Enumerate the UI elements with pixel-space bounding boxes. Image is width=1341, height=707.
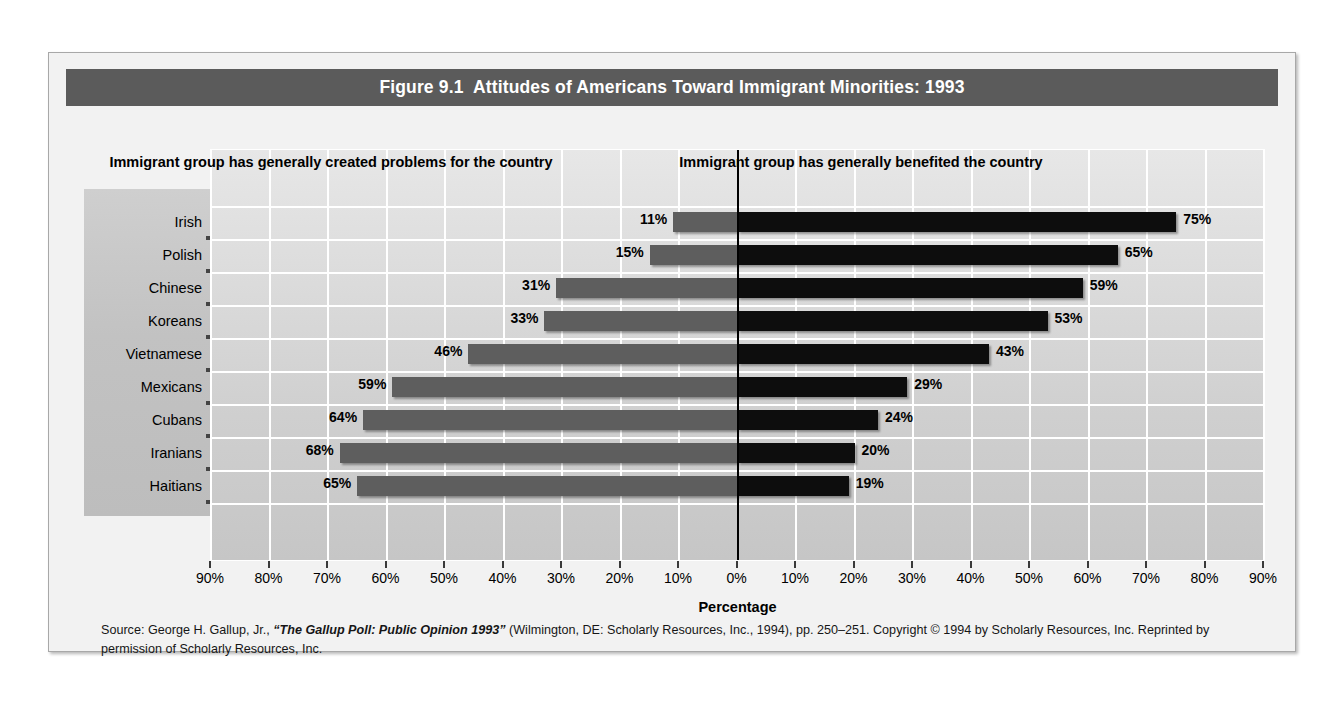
bar-problems [544, 311, 737, 331]
bar-value-problems: 31% [464, 277, 550, 293]
y-axis-tick [206, 368, 210, 372]
x-axis-title: Percentage [210, 599, 1265, 615]
chart-area: Immigrant group has generally created pr… [66, 149, 1278, 609]
bar-value-benefited: 59% [1090, 277, 1176, 293]
category-label: Irish [72, 206, 202, 239]
x-axis-tick-label: 80% [239, 570, 299, 586]
y-axis-tick [206, 401, 210, 405]
x-axis-tick [209, 561, 211, 568]
x-axis-tick-label: 80% [1175, 570, 1235, 586]
x-axis-tick-label: 30% [882, 570, 942, 586]
x-axis-tick [1028, 561, 1030, 568]
x-axis-tick [619, 561, 621, 568]
bar-value-benefited: 29% [914, 376, 1000, 392]
x-axis-tick-label: 40% [473, 570, 533, 586]
y-axis-tick [206, 269, 210, 273]
bar-value-problems: 68% [248, 442, 334, 458]
x-axis-tick-label: 20% [824, 570, 884, 586]
bar-value-problems: 59% [300, 376, 386, 392]
figure-title-bar: Figure 9.1 Attitudes of Americans Toward… [66, 69, 1278, 106]
x-axis-tick [677, 561, 679, 568]
x-axis-tick [560, 561, 562, 568]
zero-axis-line [737, 150, 739, 560]
y-axis-tick [206, 434, 210, 438]
x-axis-tick [443, 561, 445, 568]
bar-problems [363, 410, 737, 430]
bar-benefited [738, 311, 1048, 331]
bar-problems [556, 278, 737, 298]
figure-panel: Figure 9.1 Attitudes of Americans Toward… [48, 52, 1296, 652]
x-axis-tick [1262, 561, 1264, 568]
source-note: Source: George H. Gallup, Jr., “The Gall… [101, 621, 1241, 659]
y-axis-tick [206, 500, 210, 504]
bar-value-benefited: 75% [1183, 211, 1269, 227]
plot-area: 11%75%15%65%31%59%33%53%46%43%59%29%64%2… [210, 149, 1265, 561]
bar-benefited [738, 212, 1177, 232]
figure-title: Figure 9.1 Attitudes of Americans Toward… [379, 77, 964, 98]
bar-problems [357, 476, 737, 496]
y-axis-tick [206, 302, 210, 306]
x-axis-tick-label: 60% [1058, 570, 1118, 586]
x-axis-tick-label: 30% [531, 570, 591, 586]
bar-benefited [738, 443, 855, 463]
bar-problems [392, 377, 737, 397]
column-heading-problems: Immigrant group has generally created pr… [96, 153, 566, 171]
x-axis-tick-label: 50% [414, 570, 474, 586]
bar-value-benefited: 65% [1125, 244, 1211, 260]
category-label: Vietnamese [72, 338, 202, 371]
x-axis-tick-label: 0% [707, 570, 767, 586]
x-axis-tick [326, 561, 328, 568]
bar-value-problems: 11% [581, 211, 667, 227]
category-label: Koreans [72, 305, 202, 338]
category-label: Mexicans [72, 371, 202, 404]
bar-problems [468, 344, 737, 364]
bar-problems [673, 212, 737, 232]
x-axis-tick [502, 561, 504, 568]
bar-value-benefited: 20% [862, 442, 948, 458]
y-axis-tick [206, 236, 210, 240]
bar-problems [650, 245, 738, 265]
bar-value-benefited: 43% [996, 343, 1082, 359]
bar-value-problems: 33% [452, 310, 538, 326]
category-label: Polish [72, 239, 202, 272]
x-axis-tick-label: 70% [1116, 570, 1176, 586]
x-axis-tick [794, 561, 796, 568]
bar-value-problems: 64% [271, 409, 357, 425]
x-axis-tick [736, 561, 738, 568]
x-axis-tick-label: 90% [180, 570, 240, 586]
x-axis-tick [268, 561, 270, 568]
x-axis-tick [853, 561, 855, 568]
x-axis-tick [911, 561, 913, 568]
bar-value-benefited: 53% [1055, 310, 1141, 326]
x-axis-tick [385, 561, 387, 568]
bar-value-benefited: 19% [856, 475, 942, 491]
y-axis-tick [206, 335, 210, 339]
source-title: “The Gallup Poll: Public Opinion 1993” [273, 623, 505, 637]
bar-value-problems: 15% [558, 244, 644, 260]
bar-problems [340, 443, 738, 463]
category-label: Chinese [72, 272, 202, 305]
column-heading-benefited: Immigrant group has generally benefited … [626, 153, 1096, 171]
source-prefix: Source: George H. Gallup, Jr., [101, 623, 273, 637]
x-axis-tick-labels: 90%80%70%60%50%40%30%20%10%0%10%20%30%40… [210, 570, 1265, 592]
bar-benefited [738, 377, 908, 397]
bar-benefited [738, 278, 1083, 298]
bar-value-problems: 46% [376, 343, 462, 359]
x-axis-tick-label: 50% [999, 570, 1059, 586]
x-axis-tick-label: 20% [590, 570, 650, 586]
x-axis-tick [970, 561, 972, 568]
x-axis-tick [1087, 561, 1089, 568]
category-label: Iranians [72, 437, 202, 470]
x-axis-tick-label: 60% [356, 570, 416, 586]
bar-benefited [738, 344, 990, 364]
x-axis-tick [1204, 561, 1206, 568]
x-axis-tick-label: 90% [1233, 570, 1293, 586]
bar-benefited [738, 476, 849, 496]
category-label: Cubans [72, 404, 202, 437]
bar-benefited [738, 410, 878, 430]
x-axis-tick-label: 10% [765, 570, 825, 586]
x-axis-tick-label: 10% [648, 570, 708, 586]
y-axis-tick [206, 467, 210, 471]
x-axis-tick [1145, 561, 1147, 568]
bar-value-problems: 65% [265, 475, 351, 491]
